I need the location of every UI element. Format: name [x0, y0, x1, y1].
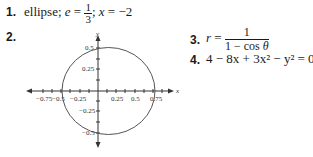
y-tick-label: 0.25 [82, 65, 95, 73]
y-tick-label: 0.5 [85, 44, 94, 52]
y-axis-down-arrow-icon [96, 142, 101, 148]
x-tick-label: −0.25 [70, 95, 87, 103]
x-tick-label: 0.25 [111, 95, 124, 103]
ellipse-graph: −0.75 −0.5 −0.25 0.25 0.5 0.75 0.5 0.25 … [0, 0, 313, 157]
y-tick-label: −0.25 [79, 107, 96, 115]
x-tick-label: 0.5 [131, 95, 140, 103]
polar-fraction: 11 − cos θ [225, 26, 269, 53]
equals: = [211, 30, 225, 45]
x-tick-label: −0.75 [36, 95, 53, 103]
x-tick-label: −0.5 [52, 95, 65, 103]
y-axis-label: y [95, 30, 100, 38]
x-axis-label: x [175, 87, 180, 95]
x-tick-label: 0.75 [150, 95, 163, 103]
x-axis-left-arrow-icon [26, 89, 32, 94]
frac-numerator: 1 [225, 26, 269, 40]
y-tick-label: −0.5 [82, 129, 95, 137]
x-axis-right-arrow-icon [168, 89, 174, 94]
item-3-answer: r = 11 − cos θ [206, 26, 269, 53]
item-4-equation: 4 − 8x + 3x² − y² = 0 [206, 51, 313, 67]
item-3-number: 3. [190, 33, 200, 47]
item-4-number: 4. [190, 53, 200, 67]
